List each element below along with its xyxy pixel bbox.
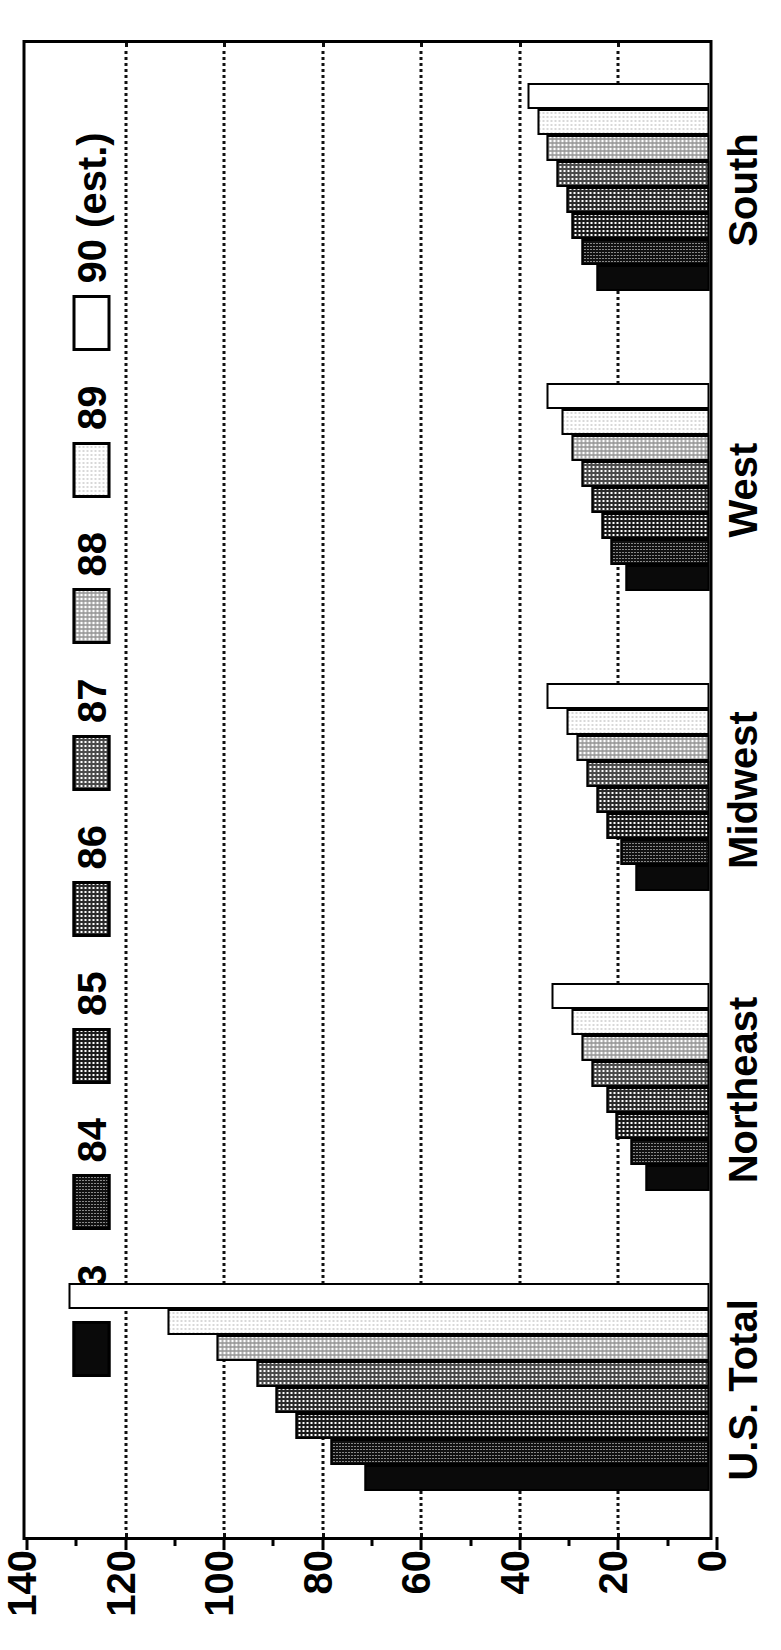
bar-group-west [25,383,709,591]
bar[interactable] [601,513,709,539]
bar[interactable] [620,839,709,865]
legend-swatch [72,882,110,938]
x-category-label: U.S. Total [720,1299,765,1480]
bar[interactable] [571,213,709,239]
legend-swatch [72,442,110,498]
bar[interactable] [537,109,710,135]
y-minor-tick-mark [271,1537,274,1546]
bar[interactable] [167,1309,709,1335]
y-minor-tick-mark [469,1537,472,1546]
bar[interactable] [581,461,709,487]
y-axis-tick-labels: 020406080100120140 [22,1550,712,1650]
bar[interactable] [566,709,709,735]
bar[interactable] [615,1113,709,1139]
bar[interactable] [216,1335,709,1361]
bar[interactable] [596,787,709,813]
bar[interactable] [645,1165,709,1191]
bar[interactable] [576,735,709,761]
legend-swatch [72,296,110,352]
bar[interactable] [635,865,709,891]
legend-item[interactable]: 84 [69,1118,114,1231]
bar[interactable] [546,135,709,161]
y-tick-label: 140 [0,1550,45,1617]
bar[interactable] [610,539,709,565]
bar[interactable] [596,265,709,291]
bar[interactable] [606,1087,710,1113]
legend-item[interactable]: 83 [69,1265,114,1378]
bar[interactable] [256,1361,709,1387]
legend-swatch [72,735,110,791]
y-tick-label: 60 [394,1550,439,1595]
legend-item[interactable]: 88 [69,532,114,645]
bar[interactable] [364,1465,709,1491]
bar[interactable] [551,983,709,1009]
bar[interactable] [606,813,710,839]
legend-item[interactable]: 90 (est.) [69,132,114,351]
plot-area: 8384858687888990 (est.) [22,40,712,1540]
bar[interactable] [546,683,709,709]
bar[interactable] [591,1061,709,1087]
bar[interactable] [571,435,709,461]
legend-item[interactable]: 89 [69,386,114,499]
y-minor-tick-mark [173,1537,176,1546]
bar[interactable] [561,409,709,435]
bar[interactable] [566,187,709,213]
legend-label: 88 [69,532,114,577]
bar[interactable] [581,1035,709,1061]
legend-swatch [72,589,110,645]
y-tick-label: 100 [197,1550,242,1617]
legend-swatch [72,1028,110,1084]
legend-label: 86 [69,825,114,870]
legend-label: 90 (est.) [69,132,114,283]
y-minor-tick-mark [666,1537,669,1546]
bar[interactable] [625,565,709,591]
bar-group-south [25,83,709,291]
bar[interactable] [527,83,709,109]
bar[interactable] [586,761,709,787]
bar[interactable] [295,1413,709,1439]
legend-item[interactable]: 86 [69,825,114,938]
legend-swatch [72,1175,110,1231]
y-minor-tick-mark [74,1537,77,1546]
bar[interactable] [275,1387,709,1413]
bar[interactable] [68,1283,709,1309]
bar[interactable] [556,161,709,187]
legend-label: 84 [69,1118,114,1163]
bar-chart-figure: 020406080100120140 8384858687888990 (est… [0,0,781,1650]
legend-label: 85 [69,972,114,1017]
bar[interactable] [591,487,709,513]
legend-label: 89 [69,386,114,431]
y-tick-mark [419,1537,422,1550]
bar[interactable] [330,1439,710,1465]
legend-swatch [72,1321,110,1377]
x-category-label: West [720,443,765,538]
bar-group-u-s-total [25,1283,709,1491]
x-category-label: South [720,133,765,246]
y-tick-mark [616,1537,619,1550]
chart-page: 020406080100120140 8384858687888990 (est… [0,0,781,1650]
y-minor-tick-mark [567,1537,570,1546]
bar[interactable] [581,239,709,265]
y-tick-mark [25,1537,28,1550]
y-tick-label: 40 [492,1550,537,1595]
legend-item[interactable]: 85 [69,972,114,1085]
x-axis-category-labels: U.S. TotalNortheastMidwestWestSouth [716,40,781,1540]
x-category-label: Midwest [720,711,765,869]
y-tick-label: 80 [295,1550,340,1595]
y-tick-mark [124,1537,127,1550]
x-category-label: Northeast [720,997,765,1184]
bar-group-northeast [25,983,709,1191]
y-minor-tick-mark [370,1537,373,1546]
y-tick-label: 20 [591,1550,636,1595]
bar-groups [25,43,709,1537]
bar-group-midwest [25,683,709,891]
bar[interactable] [571,1009,709,1035]
bar[interactable] [546,383,709,409]
y-tick-label: 120 [98,1550,143,1617]
y-tick-label: 0 [690,1550,735,1572]
legend-label: 87 [69,679,114,724]
legend-item[interactable]: 87 [69,679,114,792]
rotated-figure-container: 020406080100120140 8384858687888990 (est… [0,0,781,1650]
y-tick-mark [518,1537,521,1550]
bar[interactable] [630,1139,709,1165]
